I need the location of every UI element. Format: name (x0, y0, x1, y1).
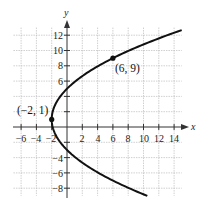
parabola-chart: x y −6 −4 −2 2 4 6 8 10 12 14 12 10 8 6 … (0, 0, 203, 205)
y-tick-label: 6 (58, 76, 63, 87)
vertex-point (49, 117, 54, 122)
y-tick-label: 8 (58, 60, 63, 71)
x-tick-label: 8 (126, 133, 131, 144)
x-tick-label: 4 (96, 133, 101, 144)
x-tick-label: 14 (169, 133, 179, 144)
x-axis-label: x (190, 121, 196, 132)
y-tick-label: 12 (53, 30, 63, 41)
vertex-label: (−2, 1) (17, 104, 49, 117)
y-tick-label: −8 (52, 183, 63, 194)
x-tick-label: 10 (139, 133, 149, 144)
y-tick-label: 10 (53, 45, 63, 56)
x-axis-arrow-icon (181, 124, 189, 130)
y-axis-label: y (63, 7, 69, 18)
parabola-curve (52, 30, 182, 196)
y-axis-arrow-icon (64, 20, 70, 28)
point-6-9 (110, 56, 115, 61)
y-tick-label: −6 (52, 168, 63, 179)
x-tick-label: 6 (111, 133, 116, 144)
x-tick-label: −6 (16, 133, 27, 144)
point-label: (6, 9) (115, 62, 140, 75)
x-tick-label: 2 (80, 133, 85, 144)
y-tick-label: −4 (52, 153, 63, 164)
x-tick-label: −4 (31, 133, 42, 144)
x-tick-label: 12 (154, 133, 164, 144)
